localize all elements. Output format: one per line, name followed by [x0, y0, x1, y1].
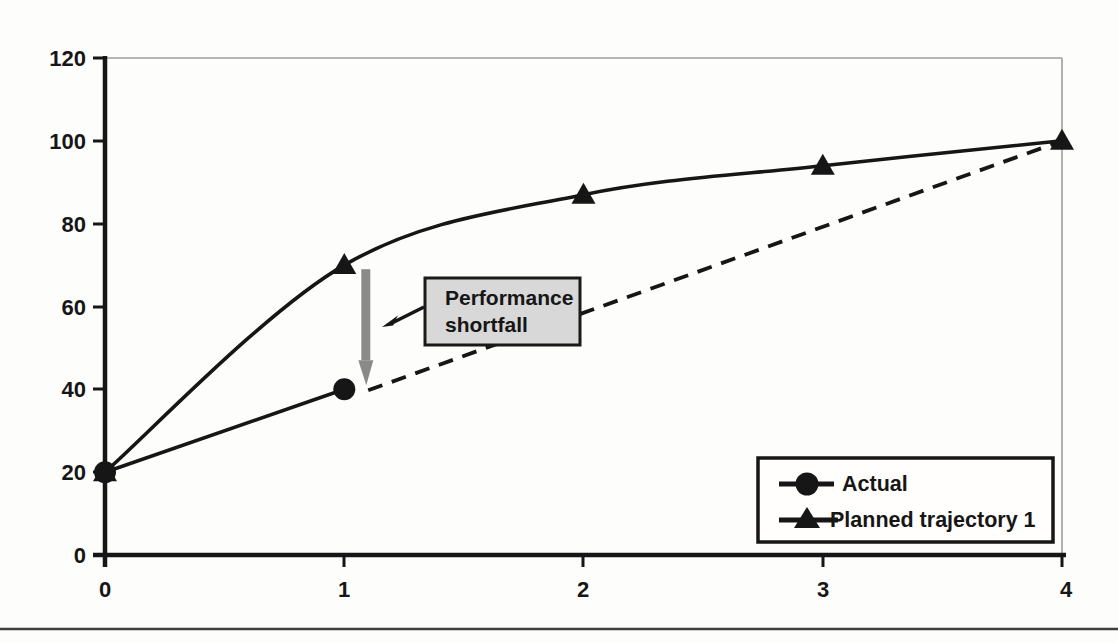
series-layer — [93, 129, 1074, 483]
y-tick-label: 60 — [62, 295, 86, 320]
projection-dashed-line — [368, 141, 1062, 390]
y-tick-label: 120 — [49, 46, 86, 71]
x-axis: 0 1 2 3 4 — [93, 555, 1073, 602]
y-axis-labels: 0 20 40 60 80 100 120 — [49, 46, 86, 568]
x-tick-label: 4 — [1060, 577, 1073, 602]
y-axis: 0 20 40 60 80 100 120 — [49, 46, 105, 568]
triangle-marker-icon — [332, 253, 356, 274]
x-tick-label: 3 — [817, 577, 829, 602]
shortfall-arrowhead-icon — [358, 360, 373, 385]
circle-marker-icon — [94, 461, 116, 483]
chart-figure: 0 20 40 60 80 100 120 0 1 2 — [0, 0, 1118, 643]
circle-marker-icon — [796, 473, 819, 496]
x-tick-label: 2 — [577, 577, 589, 602]
y-tick-label: 80 — [62, 212, 86, 237]
annotation-text-line2: shortfall — [445, 313, 528, 336]
legend: Actual Planned trajectory 1 — [758, 458, 1053, 542]
annotation-text-line1: Performance — [445, 286, 573, 309]
circle-marker-icon — [333, 378, 355, 400]
legend-label-actual: Actual — [842, 472, 908, 496]
shortfall-arrow-shaft — [361, 269, 370, 360]
y-tick-label: 40 — [62, 377, 86, 402]
x-tick-label: 1 — [338, 577, 350, 602]
annotation-arrow-line — [392, 307, 424, 323]
series-line-actual — [105, 389, 344, 472]
x-axis-labels: 0 1 2 3 4 — [99, 577, 1073, 602]
trajectory-chart: 0 20 40 60 80 100 120 0 1 2 — [0, 0, 1118, 643]
y-tick-label: 100 — [49, 129, 86, 154]
y-tick-label: 20 — [62, 460, 86, 485]
legend-label-planned: Planned trajectory 1 — [830, 508, 1036, 532]
annotation-layer: Performance shortfall — [382, 278, 580, 345]
y-tick-label: 0 — [74, 543, 86, 568]
triangle-marker-icon — [1050, 129, 1074, 150]
x-tick-label: 0 — [99, 577, 111, 602]
